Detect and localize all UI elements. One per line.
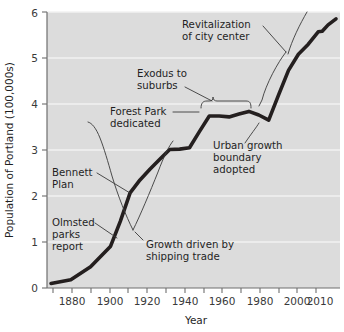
y-axis-ticks: [42, 12, 47, 288]
x-tick-label-1960: 1960: [209, 295, 236, 307]
annotation-forest-park-line-2: dedicated: [110, 118, 161, 129]
annotation-urban-growth-line-1: Urban growth: [213, 140, 283, 151]
x-tick-label-1940: 1940: [172, 295, 199, 307]
annotation-shipping-trade-line-2: shipping trade: [146, 251, 220, 262]
x-axis-ticks: [53, 288, 316, 293]
y-tick-label-5: 5: [31, 52, 38, 64]
y-axis-title: Population of Portland (100,000s): [3, 62, 15, 238]
y-tick-label-4: 4: [31, 98, 38, 110]
annotation-bennett-plan-line-2: Plan: [52, 179, 74, 190]
annotation-revitalization-line-1: Revitalization: [182, 19, 251, 30]
y-tick-label-1: 1: [31, 236, 38, 248]
y-tick-label-3: 3: [31, 144, 38, 156]
x-tick-label-1920: 1920: [134, 295, 161, 307]
annotation-urban-growth-line-2: boundary: [213, 152, 262, 163]
x-axis-title: Year: [184, 314, 208, 326]
x-axis-tick-labels: 1880 1900 1920 1940 1960 1980 2000 2010: [59, 295, 334, 307]
annotation-exodus-line-2: suburbs: [137, 80, 178, 91]
x-tick-label-1980: 1980: [247, 295, 274, 307]
annotation-forest-park-line-1: Forest Park: [110, 106, 167, 117]
y-axis-tick-labels: 0 1 2 3 4 5 6: [31, 7, 38, 294]
chart-svg: 0 1 2 3 4 5 6 1880: [0, 0, 344, 332]
annotation-revitalization-line-2: of city center: [182, 31, 250, 42]
population-chart-figure: 0 1 2 3 4 5 6 1880: [0, 0, 344, 332]
annotation-urban-growth-line-3: adopted: [213, 164, 255, 175]
x-tick-label-2010: 2010: [307, 295, 334, 307]
annotation-olmsted-line-1: Olmsted: [52, 217, 95, 228]
annotation-exodus-line-1: Exodus to: [137, 68, 187, 79]
y-tick-label-0: 0: [31, 282, 38, 294]
annotation-olmsted-line-2: parks: [52, 229, 80, 240]
y-tick-label-2: 2: [31, 190, 38, 202]
annotation-shipping-trade-line-1: Growth driven by: [146, 239, 234, 250]
annotation-bennett-plan-line-1: Bennett: [52, 167, 92, 178]
x-tick-label-1880: 1880: [59, 295, 86, 307]
annotation-olmsted-line-3: report: [52, 241, 83, 252]
x-tick-label-1900: 1900: [97, 295, 124, 307]
y-tick-label-6: 6: [31, 7, 38, 19]
